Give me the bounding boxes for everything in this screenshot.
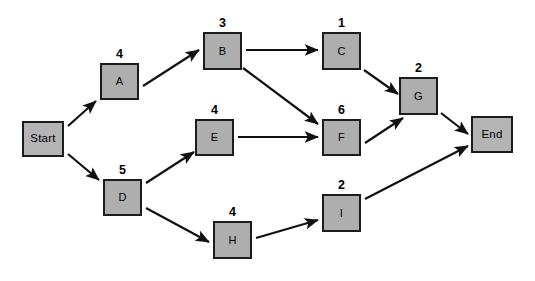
duration-label-c: 1 [322,17,361,30]
node-d[interactable]: D [103,179,142,216]
node-a[interactable]: A [100,63,139,100]
duration-label-i: 2 [322,179,361,192]
node-h[interactable]: H [213,221,252,259]
node-label-i: I [340,208,343,219]
edge-start-a [68,101,96,126]
node-label-f: F [338,132,345,143]
duration-label-b: 3 [203,17,242,30]
duration-label-e: 4 [195,104,234,117]
edge-i-end [365,146,468,199]
node-label-end: End [481,129,502,141]
node-start[interactable]: Start [22,121,64,157]
edge-g-end [441,113,468,134]
node-b[interactable]: B [203,32,242,70]
edge-d-e [146,152,194,183]
node-label-h: H [228,235,236,246]
duration-label-h: 4 [213,206,252,219]
node-i[interactable]: I [322,194,361,232]
duration-label-g: 2 [399,62,438,75]
edge-f-g [365,118,403,143]
node-f[interactable]: F [322,119,361,156]
edge-d-h [146,208,209,242]
edge-b-f [243,68,318,124]
node-c[interactable]: C [322,32,361,70]
node-e[interactable]: E [195,119,234,156]
node-label-d: D [118,192,126,203]
node-label-b: B [219,46,227,57]
edge-c-g [364,70,398,94]
node-label-a: A [116,76,124,87]
diagram-canvas [0,0,535,281]
edge-a-b [143,50,199,86]
duration-label-a: 4 [100,48,139,61]
node-label-c: C [337,46,345,57]
node-label-e: E [211,132,219,143]
edge-h-i [256,220,318,238]
duration-label-f: 6 [322,104,361,117]
node-end[interactable]: End [471,116,513,153]
duration-label-d: 5 [103,164,142,177]
node-label-start: Start [30,133,55,145]
node-label-g: G [414,91,423,102]
edge-start-d [68,154,99,180]
node-g[interactable]: G [399,77,438,115]
